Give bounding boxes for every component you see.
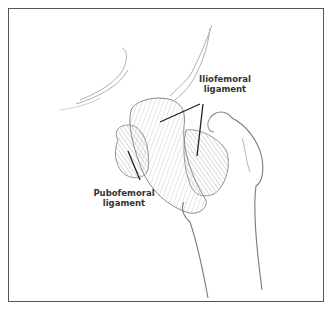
hip-ligament-illustration [0,0,333,311]
label-iliofemoral-line1: Iliofemoral [190,74,260,84]
pelvis-outline [60,25,212,110]
label-iliofemoral-ligament: Iliofemoral ligament [190,74,260,94]
label-pubofemoral-line2: ligament [88,198,160,208]
label-pubofemoral-ligament: Pubofemoral ligament [88,188,160,208]
label-pubofemoral-line1: Pubofemoral [88,188,160,198]
label-iliofemoral-line2: ligament [190,84,260,94]
